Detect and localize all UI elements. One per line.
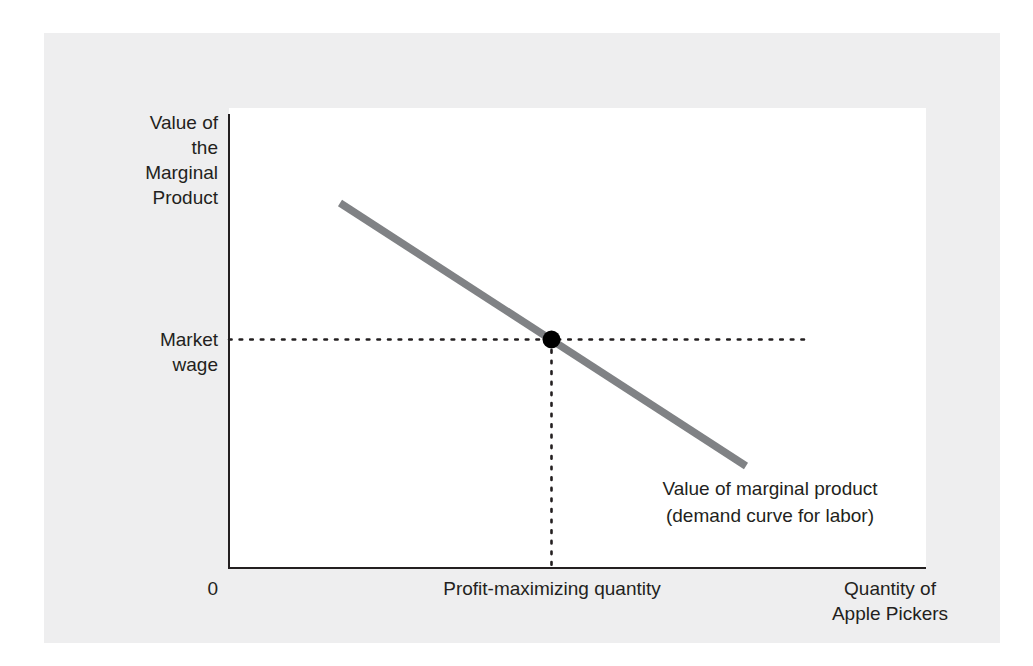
x-axis-title: Quantity of Apple Pickers — [790, 576, 990, 626]
economics-figure: Value of the Marginal Product Market wag… — [0, 0, 1033, 666]
market-wage-label: Market wage — [20, 327, 218, 377]
profit-maximizing-quantity-label: Profit-maximizing quantity — [400, 576, 704, 601]
y-axis-title: Value of the Marginal Product — [20, 110, 218, 210]
y-axis-line — [228, 114, 230, 569]
origin-label: 0 — [168, 576, 218, 601]
curve-annotation-label: Value of marginal product (demand curve … — [605, 475, 935, 529]
x-axis-line — [228, 567, 926, 569]
